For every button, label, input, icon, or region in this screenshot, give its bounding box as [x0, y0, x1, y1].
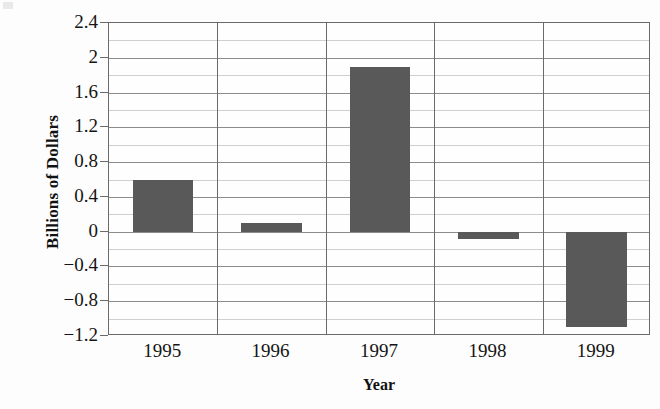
gridline-vertical: [543, 23, 544, 334]
gridline-vertical: [326, 23, 327, 334]
gridline-vertical: [217, 23, 218, 334]
plot-area: [108, 22, 650, 335]
y-tick-mark: [100, 265, 108, 266]
y-tick-mark: [100, 300, 108, 301]
y-tick-label: −1.2: [36, 325, 98, 344]
bar-chart: Billions of Dollars 2.421.61.20.80.40−0.…: [0, 0, 660, 409]
x-tick-label-1998: 1998: [433, 341, 541, 362]
gridline-minor: [109, 40, 649, 41]
y-tick-mark: [100, 335, 108, 336]
gridline-vertical: [434, 23, 435, 334]
y-axis-title: Billions of Dollars: [43, 52, 63, 312]
x-tick-label-1995: 1995: [108, 341, 216, 362]
y-tick-mark: [100, 22, 108, 23]
bar-1997: [350, 67, 411, 232]
bar-1998: [458, 232, 519, 239]
bar-1996: [241, 223, 302, 232]
x-axis-title: Year: [108, 376, 650, 394]
x-tick-label-1999: 1999: [542, 341, 650, 362]
y-tick-mark: [100, 161, 108, 162]
y-tick-mark: [100, 57, 108, 58]
y-tick-mark: [100, 231, 108, 232]
x-tick-label-1997: 1997: [325, 341, 433, 362]
y-tick-mark: [100, 92, 108, 93]
bar-1999: [566, 232, 627, 328]
scan-artifact: [3, 2, 13, 9]
x-tick-label-1996: 1996: [216, 341, 324, 362]
y-tick-mark: [100, 126, 108, 127]
y-tick-mark: [100, 196, 108, 197]
gridline-major: [109, 58, 649, 59]
y-tick-label: 2.4: [36, 12, 98, 31]
bar-1995: [133, 180, 194, 232]
